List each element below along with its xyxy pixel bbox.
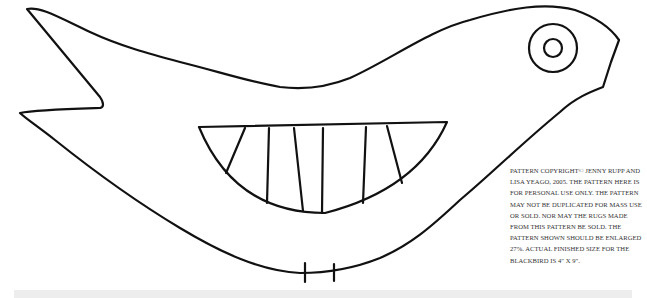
bottom-scan-band [14, 290, 632, 298]
copyright-notice: PATTERN COPYRIGHT© JENNY RUPP AND LISA Y… [510, 165, 642, 266]
eye-outer-ring [529, 24, 577, 72]
eye-pupil [544, 39, 562, 57]
wing-feather-lines [226, 126, 402, 213]
